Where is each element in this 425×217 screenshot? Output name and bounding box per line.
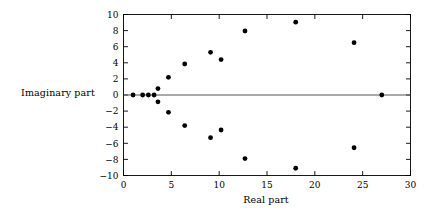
complex-plane-scatter-figure: 051015202530−10−8−6−4−20246810 Imaginary… [0, 0, 425, 217]
x-tick-label: 20 [309, 180, 321, 190]
y-tick-label: 4 [113, 58, 119, 68]
data-point [219, 128, 224, 133]
data-point [208, 135, 213, 140]
y-tick-label: 6 [113, 42, 119, 52]
y-tick-label: −4 [105, 122, 119, 132]
y-axis-label: Imaginary part [8, 87, 108, 98]
y-tick-label: 2 [113, 74, 119, 84]
data-point [140, 93, 145, 98]
data-point [131, 93, 136, 98]
data-point [166, 110, 171, 115]
data-point [293, 166, 298, 171]
data-point [156, 99, 161, 104]
x-tick-label: 15 [261, 180, 273, 190]
y-tick-label: 0 [113, 90, 119, 100]
x-tick-label: 10 [213, 180, 225, 190]
data-point [208, 50, 213, 55]
data-point [352, 40, 357, 45]
y-tick-label: 8 [113, 26, 119, 36]
data-point [352, 145, 357, 150]
data-point [219, 57, 224, 62]
y-tick-label: −6 [105, 139, 119, 149]
x-tick-label: 25 [357, 180, 369, 190]
x-axis-label: Real part [216, 194, 316, 205]
data-point [379, 93, 384, 98]
plot-canvas: 051015202530−10−8−6−4−20246810 [0, 0, 425, 217]
x-tick-label: 0 [121, 180, 127, 190]
data-point [243, 156, 248, 161]
data-point [156, 86, 161, 91]
x-tick-label: 5 [168, 180, 174, 190]
y-tick-label: −8 [105, 155, 119, 165]
y-tick-label: −2 [105, 106, 118, 116]
data-point [152, 93, 157, 98]
data-point [243, 29, 248, 34]
x-tick-label: 30 [405, 180, 417, 190]
data-point [182, 62, 187, 67]
data-point [182, 123, 187, 128]
y-tick-label: 10 [107, 10, 119, 20]
data-point [146, 93, 151, 98]
y-tick-label: −10 [100, 171, 119, 181]
data-point [293, 20, 298, 25]
data-point [166, 75, 171, 80]
